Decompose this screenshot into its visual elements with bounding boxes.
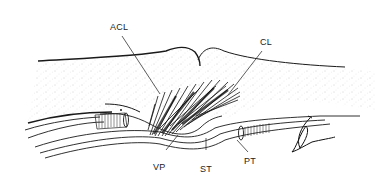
diagram-drawing: [0, 0, 381, 181]
label-acl: ACL: [110, 22, 128, 32]
label-pt: PT: [244, 156, 256, 166]
label-st: ST: [200, 164, 212, 174]
ligament-diagram: ACL CL VP ST PT: [0, 0, 381, 181]
label-cl: CL: [260, 37, 272, 47]
label-vp: VP: [153, 162, 166, 172]
pt-leader: [237, 140, 248, 152]
